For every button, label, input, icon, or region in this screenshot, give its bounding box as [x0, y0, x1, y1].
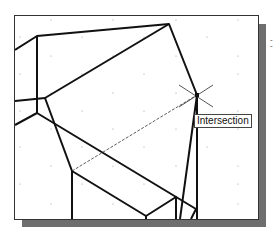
tick-mark: - — [270, 41, 273, 50]
osnap-tooltip: Intersection — [194, 114, 252, 128]
side-tick-marks: -- — [270, 37, 273, 49]
